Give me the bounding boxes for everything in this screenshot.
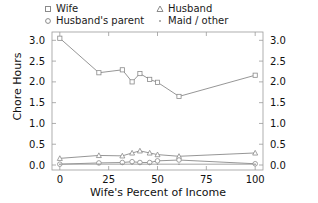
data-point-dot [98, 163, 100, 165]
y-tick-label-right: 1.5 [270, 97, 286, 108]
y-tick-label-left: 2.0 [29, 76, 45, 87]
x-tick-label: 0 [57, 174, 63, 185]
x-tick-label: 75 [200, 174, 213, 185]
data-point-square [120, 68, 124, 72]
y-tick-label-right: 1.0 [270, 118, 286, 129]
y-tick-label-left: 1.5 [29, 97, 45, 108]
y-tick-label-right: 2.0 [270, 76, 286, 87]
y-tick-label-left: 2.5 [29, 56, 45, 67]
series-line [60, 38, 255, 96]
data-point-dot [254, 163, 256, 165]
data-point-circle [177, 158, 182, 163]
data-point-dot [59, 163, 61, 165]
chart-figure: Wife Husband Husband's parent Maid / oth… [0, 0, 318, 203]
plot-area: 02550751000.00.00.50.51.01.01.51.52.02.0… [0, 0, 318, 203]
data-point-square [148, 77, 152, 81]
data-point-square [58, 36, 62, 40]
data-point-square [97, 71, 101, 75]
y-tick-label-left: 1.0 [29, 118, 45, 129]
y-tick-label-right: 3.0 [270, 35, 286, 46]
x-tick-label: 50 [151, 174, 164, 185]
y-tick-label-left: 0.0 [29, 160, 45, 171]
data-point-square [138, 71, 142, 75]
data-point-dot [131, 163, 133, 165]
data-point-dot [178, 163, 180, 165]
y-tick-label-right: 0.0 [270, 160, 286, 171]
data-point-circle [130, 159, 135, 164]
data-point-dot [157, 163, 159, 165]
x-tick-label: 100 [246, 174, 265, 185]
data-point-square [177, 94, 181, 98]
data-point-square [155, 80, 159, 84]
y-tick-label-right: 0.5 [270, 139, 286, 150]
data-point-triangle [137, 148, 142, 153]
data-point-dot [149, 163, 151, 165]
series-husband-s-parent [58, 158, 258, 167]
y-tick-label-right: 2.5 [270, 56, 286, 67]
y-tick-label-left: 0.5 [29, 139, 45, 150]
data-point-dot [139, 163, 141, 165]
data-point-dot [122, 163, 124, 165]
data-point-square [253, 73, 257, 77]
x-tick-label: 25 [102, 174, 115, 185]
y-tick-label-left: 3.0 [29, 35, 45, 46]
data-point-square [130, 80, 134, 84]
plot-frame [52, 32, 263, 170]
data-point-circle [155, 159, 160, 164]
series-wife [58, 36, 258, 98]
